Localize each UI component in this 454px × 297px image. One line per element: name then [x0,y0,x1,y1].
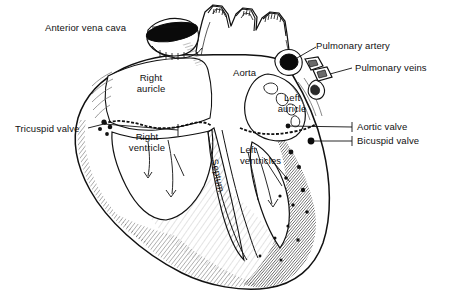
label-bicuspid-valve: Bicuspid valve [357,135,419,146]
leader-pulmonary-veins [330,68,352,74]
label-tricuspid-valve: Tricuspid valve [15,123,80,134]
label-left-auricle-line2: auricle [272,103,312,114]
label-left-auricle-line1: Left [272,92,312,103]
label-right-ventricle-line1: Right [124,131,170,142]
label-left-ventricles-line2: ventricles [240,155,281,166]
label-anterior-vena-cava: Anterior vena cava [45,22,126,33]
label-pulmonary-artery: Pulmonary artery [316,40,390,51]
label-right-auricle-line1: Right [128,72,174,83]
label-left-ventricles-line1: Left [240,144,256,155]
pulmonary-artery-opening [280,54,298,70]
label-right-ventricle-line2: ventricle [124,142,170,153]
label-right-auricle-line2: auricle [128,83,174,94]
label-aorta: Aorta [233,67,256,78]
heart-diagram-figure: Anterior vena cava Tricuspid valve Right… [0,0,454,297]
leader-pulmonary-artery [297,47,316,58]
label-pulmonary-veins: Pulmonary veins [355,62,427,73]
heart-body-group [75,55,329,290]
label-aortic-valve: Aortic valve [357,121,407,132]
